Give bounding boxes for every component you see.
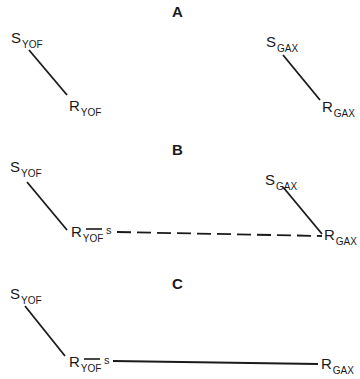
edge-c-syof-ryof	[25, 306, 65, 356]
panel-b-s-mark: s	[106, 225, 112, 236]
panel-b-r-gax: RGAX	[324, 227, 357, 242]
panel-c-title: C	[172, 276, 183, 291]
panel-c-r-yof: RYOF	[69, 354, 101, 369]
panel-b-s-yof: SYOF	[10, 159, 42, 174]
edge-a-sgax-rgax	[283, 55, 320, 100]
panel-a-r-yof: RYOF	[69, 98, 101, 113]
edge-c-s-rgax	[113, 361, 318, 364]
panel-b-title: B	[172, 142, 183, 157]
edge-b-syof-ryof	[27, 182, 67, 230]
panel-c-s-yof: SYOF	[10, 286, 42, 301]
panel-c-r-gax: RGAX	[321, 356, 354, 371]
edge-b-s-rgax-dashed	[117, 232, 322, 236]
panel-a-s-gax: SGAX	[266, 34, 298, 49]
panel-b-r-yof: RYOF	[71, 224, 103, 239]
diagram-lines	[0, 0, 360, 379]
edge-a-syof-ryof	[29, 50, 67, 95]
panel-a-r-gax: RGAX	[322, 99, 355, 114]
panel-a-title: A	[172, 4, 183, 19]
panel-b-s-gax: SGAX	[265, 172, 297, 187]
edge-b-sgax-rgax	[283, 187, 322, 234]
panel-a-s-yof: SYOF	[11, 30, 43, 45]
panel-c-s-mark: s	[104, 355, 110, 366]
